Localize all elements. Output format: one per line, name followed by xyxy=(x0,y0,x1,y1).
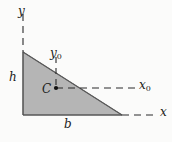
height-label: h xyxy=(9,71,17,83)
centroid-label: C xyxy=(42,83,51,95)
y-axis-label: y xyxy=(18,5,25,17)
y0-label-subscript: 0 xyxy=(57,52,62,61)
centroid-triangle-figure: y y0 h C x0 b x xyxy=(0,0,172,142)
base-label: b xyxy=(64,118,72,130)
y0-label: y0 xyxy=(50,47,62,59)
centroid-dot xyxy=(54,86,58,90)
y0-label-base: y xyxy=(50,46,57,60)
figure-drawing xyxy=(0,0,172,142)
x0-label-subscript: 0 xyxy=(146,84,151,93)
x0-label: x0 xyxy=(139,79,151,91)
x-axis-label: x xyxy=(160,106,167,118)
x0-label-base: x xyxy=(139,78,146,92)
